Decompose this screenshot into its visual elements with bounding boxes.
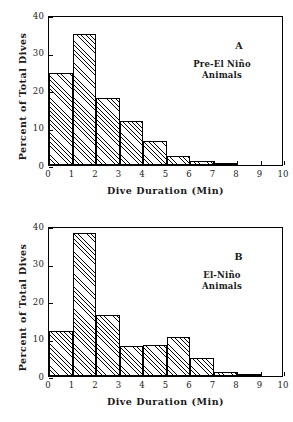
x-tick-b-4 [143,372,144,376]
x-tick-label-b-1: 1 [61,380,83,390]
y-tick-a-20 [49,92,53,93]
y-tick-label-a-40: 40 [18,12,44,21]
panel-caption-a-line1: Pre-El Niño [174,59,270,70]
x-tick-label-a-5: 5 [155,169,177,179]
x-tick-a-8 [237,161,238,165]
panel-caption-b-line2: Animals [174,281,270,292]
x-tick-label-b-10: 10 [272,380,293,390]
bar-a-4-5 [143,141,167,165]
y-tick-a-40 [49,17,53,18]
x-tick-b-8 [237,372,238,376]
x-tick-b-10 [284,372,285,376]
x-tick-a-6 [190,161,191,165]
bars-container-b [49,228,282,376]
plot-area-b: B El-Niño Animals [48,227,283,377]
x-tick-b-2 [96,372,97,376]
panel-letter-a: A [235,40,243,51]
y-tick-b-20 [49,303,53,304]
x-tick-b-6 [190,372,191,376]
x-tick-label-a-9: 9 [249,169,271,179]
y-tick-a-10 [49,130,53,131]
x-tick-label-b-9: 9 [249,380,271,390]
bar-b-3-4 [120,346,144,376]
x-tick-a-5 [167,161,168,165]
bar-a-0-1 [49,73,73,165]
y-tick-a-30 [49,55,53,56]
x-tick-label-b-8: 8 [225,380,247,390]
x-axis-title-b: Dive Duration (Min) [48,396,283,407]
x-tick-a-2 [96,161,97,165]
panel-caption-b: El-Niño Animals [174,270,270,292]
bar-b-8-9 [237,374,261,376]
x-tick-a-0 [49,161,50,165]
x-tick-label-a-2: 2 [84,169,106,179]
x-tick-a-4 [143,161,144,165]
x-tick-label-a-6: 6 [178,169,200,179]
bar-b-5-6 [167,337,191,376]
bar-b-1-2 [73,233,97,376]
bar-b-7-8 [214,372,238,376]
x-tick-b-1 [73,372,74,376]
chart-panel-b: B El-Niño Animals 012345678910 010203040… [0,211,293,422]
x-axis-title-a: Dive Duration (Min) [48,185,283,196]
x-tick-label-a-8: 8 [225,169,247,179]
x-tick-label-a-3: 3 [108,169,130,179]
bars-container-a [49,17,282,165]
y-tick-label-b-40: 40 [18,223,44,232]
x-tick-a-7 [214,161,215,165]
y-tick-a-0 [49,167,53,168]
bar-a-7-8 [214,163,238,165]
bar-a-5-6 [167,156,191,165]
x-tick-label-b-5: 5 [155,380,177,390]
x-tick-b-5 [167,372,168,376]
panel-caption-a-line2: Animals [174,70,270,81]
chart-panel-a: A Pre-El Niño Animals 012345678910 01020… [0,0,293,211]
x-tick-label-b-2: 2 [84,380,106,390]
x-tick-a-3 [120,161,121,165]
bar-b-0-1 [49,331,73,376]
x-tick-label-b-7: 7 [202,380,224,390]
x-tick-label-b-0: 0 [37,380,59,390]
x-tick-b-3 [120,372,121,376]
figure-dive-duration-histograms: A Pre-El Niño Animals 012345678910 01020… [0,0,293,422]
x-tick-a-9 [261,161,262,165]
x-tick-b-9 [261,372,262,376]
x-tick-a-10 [284,161,285,165]
x-tick-label-a-1: 1 [61,169,83,179]
bar-a-1-2 [73,34,97,165]
y-tick-b-30 [49,266,53,267]
bar-b-2-3 [96,315,120,377]
y-tick-b-10 [49,341,53,342]
panel-letter-b: B [235,251,243,262]
x-tick-b-0 [49,372,50,376]
x-tick-label-b-6: 6 [178,380,200,390]
bar-b-6-7 [190,358,214,376]
x-tick-label-b-3: 3 [108,380,130,390]
y-axis-title-a: Percent of Total Dives [17,22,28,172]
x-tick-label-a-4: 4 [131,169,153,179]
bar-a-3-4 [120,121,144,165]
bar-a-6-7 [190,161,214,165]
panel-caption-b-line1: El-Niño [174,270,270,281]
y-tick-b-40 [49,228,53,229]
x-tick-label-b-4: 4 [131,380,153,390]
bar-a-2-3 [96,98,120,166]
x-tick-a-1 [73,161,74,165]
x-tick-b-7 [214,372,215,376]
y-axis-title-b: Percent of Total Dives [17,233,28,383]
x-tick-label-a-10: 10 [272,169,293,179]
x-tick-label-a-7: 7 [202,169,224,179]
y-tick-b-0 [49,378,53,379]
plot-area-a: A Pre-El Niño Animals [48,16,283,166]
bar-b-4-5 [143,345,167,376]
x-tick-label-a-0: 0 [37,169,59,179]
panel-caption-a: Pre-El Niño Animals [174,59,270,81]
